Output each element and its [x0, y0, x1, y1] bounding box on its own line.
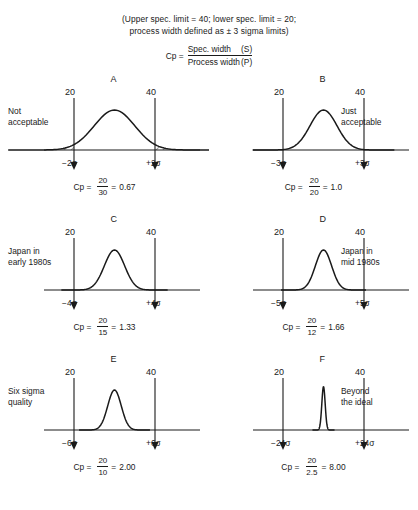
- panel-caption-line-2: quality: [8, 397, 44, 408]
- cp-equation-denominator: 10: [97, 467, 108, 477]
- sigma-label-right: +4σ: [146, 298, 161, 308]
- panel-caption-b: Justacceptable: [341, 106, 382, 128]
- panel-caption-c: Japan inearly 1980s: [8, 246, 51, 268]
- sigma-label-right: +3σ: [355, 158, 370, 168]
- panel-letter-c: C: [111, 214, 118, 224]
- cp-formula-numerator: Spec. width (S): [188, 44, 252, 56]
- cp-equation-b: Cp =2020=1.0: [209, 176, 418, 197]
- sigma-label-left: −2σ: [62, 158, 77, 168]
- panel-caption-line-2: the ideal: [341, 397, 373, 408]
- sigma-label-right: +6σ: [146, 438, 161, 448]
- cp-definition-formula: Cp = Spec. width (S) Process width (P): [0, 44, 418, 67]
- cp-equation-value: 1.0: [331, 182, 343, 192]
- capability-panel-e: ESix sigmaquality2040−6σ+6σCp =2010=2.00: [0, 352, 209, 492]
- cp-equation-denominator: 12: [306, 327, 317, 337]
- cp-formula-lhs: Cp =: [166, 51, 184, 61]
- panel-caption-line-1: Japan in: [8, 246, 51, 257]
- cp-equation-equals: =: [111, 182, 116, 192]
- cp-equation-numerator: 20: [97, 176, 108, 187]
- cp-equation-numerator: 20: [309, 176, 320, 187]
- cp-equation-c: Cp =2015=1.33: [0, 316, 209, 337]
- panel-caption-line-1: Just: [341, 106, 382, 117]
- cp-equation-numerator: 20: [97, 316, 108, 327]
- sigma-label-left: −4σ: [62, 298, 77, 308]
- cp-equation-a: Cp =2030=0.67: [0, 176, 209, 197]
- capability-panel-b: BJustacceptable2040−3σ+3σCp =2020=1.0: [209, 72, 418, 212]
- panel-caption-a: Notacceptable: [8, 106, 49, 128]
- panel-letter-a: A: [111, 74, 117, 84]
- upper-spec-limit-label: 40: [146, 227, 156, 237]
- upper-spec-limit-label: 40: [355, 227, 365, 237]
- cp-equation-equals: =: [111, 462, 116, 472]
- capability-panel-d: DJapan inmid 1980s2040−5σ+5σCp =2012=1.6…: [209, 212, 418, 352]
- panel-caption-line-1: Six sigma: [8, 386, 44, 397]
- cp-formula-numerator-symbol: (S): [241, 44, 252, 55]
- cp-formula-denominator: Process width (P): [188, 56, 252, 67]
- header-note: (Upper spec. limit = 40; lower spec. lim…: [0, 14, 418, 37]
- panel-caption-f: Beyondthe ideal: [341, 386, 373, 408]
- panel-caption-line-2: early 1980s: [8, 257, 51, 268]
- cp-equation-label: Cp =: [73, 462, 91, 472]
- lower-spec-limit-label: 20: [65, 227, 75, 237]
- panel-caption-line-2: acceptable: [8, 117, 49, 128]
- panel-caption-line-1: Japan in: [341, 246, 380, 257]
- cp-equation-value: 2.00: [119, 462, 135, 472]
- cp-equation-label: Cp =: [281, 462, 299, 472]
- cp-equation-label: Cp =: [73, 322, 91, 332]
- distribution-plot-f: [209, 352, 418, 456]
- sigma-label-left: −3σ: [271, 158, 286, 168]
- sigma-label-right: +5σ: [355, 298, 370, 308]
- sigma-label-left: −5σ: [271, 298, 286, 308]
- capability-panel-c: CJapan inearly 1980s2040−4σ+4σCp =2015=1…: [0, 212, 209, 352]
- cp-equation-denominator: 20: [309, 187, 320, 197]
- panel-caption-line-1: Not: [8, 106, 49, 117]
- panel-letter-e: E: [111, 354, 117, 364]
- cp-equation-equals: =: [321, 462, 326, 472]
- cp-equation-equals: =: [323, 182, 328, 192]
- cp-equation-equals: =: [111, 322, 116, 332]
- capability-panel-f: FBeyondthe ideal2040−24σ+24σCp =202.5=8.…: [209, 352, 418, 492]
- panel-letter-b: B: [320, 74, 326, 84]
- panel-caption-line-1: Beyond: [341, 386, 373, 397]
- cp-formula-denominator-text: Process width: [188, 57, 240, 68]
- capability-panel-a: ANotacceptable2040−2σ+2σCp =2030=0.67: [0, 72, 209, 212]
- upper-spec-limit-label: 40: [146, 87, 156, 97]
- upper-spec-limit-label: 40: [146, 367, 156, 377]
- cp-equation-value: 1.66: [328, 322, 344, 332]
- cp-equation-denominator: 15: [97, 327, 108, 337]
- cp-equation-numerator: 20: [97, 456, 108, 467]
- distribution-plot-d: [209, 212, 418, 316]
- spec-limit-note-line-1: (Upper spec. limit = 40; lower spec. lim…: [0, 14, 418, 26]
- cp-formula-numerator-text: Spec. width: [188, 44, 241, 55]
- lower-spec-limit-label: 20: [274, 367, 284, 377]
- cp-equation-numerator: 20: [306, 316, 317, 327]
- cp-equation-fraction: 2020: [309, 176, 320, 197]
- panel-letter-d: D: [320, 214, 327, 224]
- cp-equation-label: Cp =: [285, 182, 303, 192]
- cp-equation-fraction: 2010: [97, 456, 108, 477]
- cp-equation-fraction: 202.5: [305, 456, 318, 477]
- sigma-label-right: +2σ: [146, 158, 161, 168]
- cp-equation-denominator: 30: [97, 187, 108, 197]
- lower-spec-limit-label: 20: [274, 87, 284, 97]
- cp-equation-value: 0.67: [119, 182, 135, 192]
- cp-equation-equals: =: [320, 322, 325, 332]
- lower-spec-limit-label: 20: [65, 87, 75, 97]
- distribution-plot-b: [209, 72, 418, 176]
- sigma-label-left: −24σ: [271, 438, 290, 448]
- lower-spec-limit-label: 20: [65, 367, 75, 377]
- cp-equation-fraction: 2015: [97, 316, 108, 337]
- cp-equation-f: Cp =202.5=8.00: [209, 456, 418, 477]
- cp-equation-d: Cp =2012=1.66: [209, 316, 418, 337]
- cp-equation-value: 1.33: [119, 322, 135, 332]
- cp-equation-label: Cp =: [282, 322, 300, 332]
- panel-caption-d: Japan inmid 1980s: [341, 246, 380, 268]
- cp-equation-fraction: 2030: [97, 176, 108, 197]
- cp-equation-value: 8.00: [329, 462, 345, 472]
- sigma-label-right: +24σ: [355, 438, 374, 448]
- cp-equation-denominator: 2.5: [305, 467, 318, 477]
- cp-formula-denominator-symbol: (P): [241, 57, 252, 68]
- cp-equation-fraction: 2012: [306, 316, 317, 337]
- cp-equation-numerator: 20: [306, 456, 317, 467]
- panel-caption-e: Six sigmaquality: [8, 386, 44, 408]
